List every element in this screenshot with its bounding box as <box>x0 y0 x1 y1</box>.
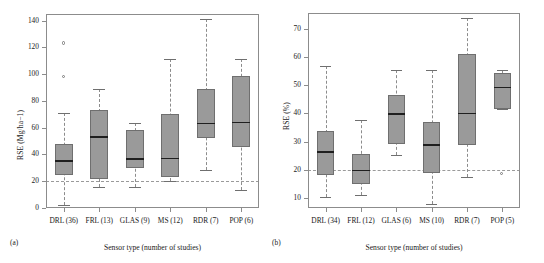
plot-frame-b <box>308 13 520 208</box>
panel-a: RSE (Mg/ha−1) Sensor type (number of stu… <box>0 0 272 263</box>
panel-b: RSE (%) Sensor type (number of studies) … <box>272 0 544 263</box>
figure-root: RSE (Mg/ha−1) Sensor type (number of stu… <box>0 0 544 263</box>
x-tick-label: POP (6) <box>218 216 266 225</box>
x-tick-mark <box>502 208 503 212</box>
x-tick-mark <box>241 208 242 212</box>
plot-frame-a <box>46 14 259 208</box>
x-tick-label: POP (5) <box>479 216 526 225</box>
